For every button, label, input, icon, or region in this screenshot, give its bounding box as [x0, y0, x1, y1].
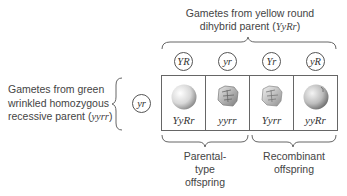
- gamete-circle-Yr: Yr: [262, 52, 281, 71]
- gamete-circle-left-yr: yr: [132, 94, 151, 113]
- offspring-genotype: YyRr: [162, 114, 205, 126]
- top-parent-line2: dihybrid parent (YyRr): [175, 20, 325, 33]
- gamete-circle-yr: yr: [218, 52, 237, 71]
- top-brace: [162, 37, 336, 49]
- offspring-cell-yyRr: yyRr: [294, 76, 337, 130]
- left-parent-genotype: yyrr: [91, 111, 109, 122]
- wrinkled-pea-icon: [215, 83, 241, 109]
- recombinant-label: Recombinant offspring: [253, 150, 335, 176]
- round-pea-icon: [302, 83, 330, 111]
- offspring-genotype: yyRr: [294, 114, 337, 126]
- recombinant-line1: Recombinant: [253, 150, 335, 163]
- parental-line1: Parental-: [170, 150, 240, 163]
- offspring-cell-Yyrr: Yyrr: [250, 76, 294, 130]
- left-parent-line1: Gametes from green: [8, 83, 118, 97]
- top-parent-line1: Gametes from yellow round: [175, 7, 325, 20]
- recombinant-brace: [252, 135, 336, 147]
- gamete-circle-yR: yR: [306, 52, 325, 71]
- gamete-circle-YR: YR: [174, 52, 193, 71]
- parental-line3: offspring: [170, 176, 240, 189]
- offspring-genotype: yyrr: [206, 114, 249, 126]
- left-parent-line2: wrinkled homozygous: [8, 97, 118, 111]
- offspring-genotype: Yyrr: [250, 114, 293, 126]
- parental-brace: [162, 135, 248, 147]
- recombinant-line2: offspring: [253, 163, 335, 176]
- wrinkled-pea-icon: [259, 83, 285, 109]
- offspring-cell-YyRr: YyRr: [162, 76, 206, 130]
- top-parent-genotype: YyRr: [276, 21, 297, 32]
- left-parent-label: Gametes from green wrinkled homozygous r…: [8, 83, 118, 124]
- top-parent-label: Gametes from yellow round dihybrid paren…: [175, 7, 325, 33]
- parental-line2: type: [170, 163, 240, 176]
- left-parent-line3: recessive parent (yyrr): [8, 110, 118, 124]
- round-pea-icon: [170, 83, 198, 111]
- punnett-grid: YyRr yyrr Yyrr yyRr: [161, 75, 338, 131]
- parental-type-label: Parental- type offspring: [170, 150, 240, 189]
- offspring-cell-yyrr: yyrr: [206, 76, 250, 130]
